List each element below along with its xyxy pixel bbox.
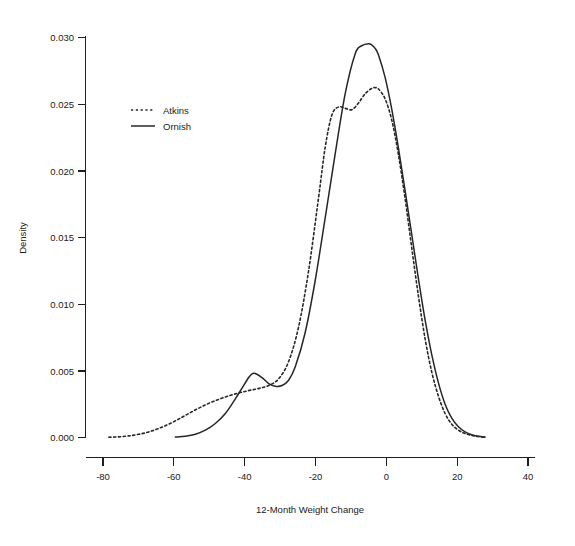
- x-axis-ticks: -80 -60 -40 -20 0 20 40: [96, 458, 533, 483]
- legend-label-ornish: Ornish: [163, 121, 191, 132]
- density-plot-figure: 0.000 0.005 0.010 0.015 0.020 0.025 0.03…: [0, 0, 575, 546]
- y-axis-title: Density: [17, 222, 28, 254]
- x-tick-label: 40: [523, 471, 534, 482]
- series-line-ornish: [175, 44, 485, 437]
- x-tick-label: -60: [167, 471, 181, 482]
- legend: Atkins Ornish: [131, 105, 191, 132]
- y-tick-label: 0.000: [50, 432, 74, 443]
- y-tick-label: 0.025: [50, 99, 74, 110]
- x-tick-label: -20: [309, 471, 323, 482]
- y-tick-label: 0.005: [50, 366, 74, 377]
- series-line-atkins: [109, 88, 485, 438]
- y-tick-label: 0.010: [50, 299, 74, 310]
- plot-canvas: 0.000 0.005 0.010 0.015 0.020 0.025 0.03…: [0, 0, 575, 546]
- x-tick-label: -40: [238, 471, 252, 482]
- x-tick-label: -80: [96, 471, 110, 482]
- x-tick-label: 20: [452, 471, 463, 482]
- y-tick-label: 0.020: [50, 166, 74, 177]
- y-axis-ticks: 0.000 0.005 0.010 0.015 0.020 0.025 0.03…: [50, 32, 85, 443]
- x-axis-title: 12-Month Weight Change: [256, 504, 364, 515]
- y-tick-label: 0.030: [50, 32, 74, 43]
- y-tick-label: 0.015: [50, 232, 74, 243]
- legend-label-atkins: Atkins: [163, 105, 189, 116]
- x-tick-label: 0: [384, 471, 389, 482]
